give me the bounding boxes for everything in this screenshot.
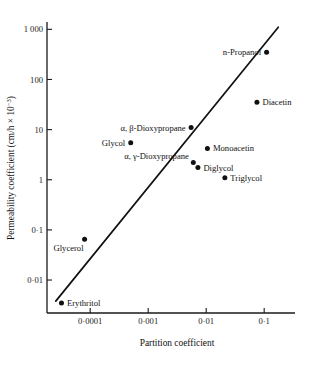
- data-point-marker: [254, 100, 259, 105]
- data-point: Glycerol: [53, 237, 87, 254]
- data-point: Diglycol: [195, 163, 234, 173]
- y-axis-title: Permeability coefficient (cm/h × 10−3): [5, 96, 17, 240]
- data-point-marker: [189, 125, 194, 130]
- y-axis-ticks: 0·010·11101001 000: [24, 24, 52, 285]
- data-point: n-Propanol: [223, 47, 269, 57]
- data-point: α, β-Dioxypropane: [120, 123, 193, 133]
- data-point-marker: [222, 175, 227, 180]
- permeability-partition-scatter-figure: 0·010·11101001 000 0·00010·0010·010·1 Er…: [0, 0, 311, 366]
- y-axis-tick-label: 100: [30, 75, 43, 85]
- data-point-label: α, γ-Dioxypropane: [124, 151, 189, 161]
- data-point-label: Triglycol: [230, 173, 262, 183]
- trend-line: [56, 27, 278, 301]
- data-point: α, γ-Dioxypropane: [124, 151, 196, 166]
- chart-canvas: 0·010·11101001 000 0·00010·0010·010·1 Er…: [0, 0, 311, 366]
- data-point: Triglycol: [222, 173, 262, 183]
- data-point-marker: [82, 237, 87, 242]
- data-point-label: Diglycol: [203, 163, 234, 173]
- y-axis-tick-label: 0·01: [27, 275, 43, 285]
- x-axis-tick-label: 0·001: [138, 316, 158, 326]
- trend-line-group: [56, 27, 278, 301]
- data-point-marker: [205, 146, 210, 151]
- y-axis-tick-label: 1 000: [24, 24, 43, 34]
- data-point-label: Glycol: [102, 138, 126, 148]
- data-point-label: n-Propanol: [223, 47, 262, 57]
- data-point-label: Diacetin: [262, 97, 292, 107]
- data-point: Monoacetin: [205, 143, 255, 153]
- x-axis-tick-label: 0·0001: [78, 316, 102, 326]
- data-point-marker: [128, 140, 133, 145]
- y-axis-tick-label: 10: [34, 125, 43, 135]
- data-point-marker: [59, 300, 64, 305]
- y-axis-tick-label: 1: [39, 175, 43, 185]
- data-point-marker: [264, 50, 269, 55]
- data-point: Diacetin: [254, 97, 292, 107]
- data-point-label: Glycerol: [53, 243, 84, 253]
- x-axis-tick-label: 0·1: [258, 316, 269, 326]
- data-point: Erythritol: [59, 298, 101, 308]
- y-axis-tick-label: 0·1: [32, 225, 43, 235]
- data-point: Glycol: [102, 138, 133, 148]
- x-axis-tick-label: 0·01: [198, 316, 214, 326]
- data-points-group: ErythritolGlycerolGlycolα, β-Dioxypropan…: [53, 47, 292, 308]
- data-point-label: α, β-Dioxypropane: [120, 123, 185, 133]
- data-point-marker: [195, 165, 200, 170]
- x-axis-ticks: 0·00010·0010·010·1: [78, 308, 270, 326]
- data-point-label: Monoacetin: [213, 143, 255, 153]
- data-point-marker: [191, 160, 196, 165]
- x-axis-title: Partition coefficient: [140, 338, 215, 348]
- chart-axes: [47, 22, 295, 313]
- data-point-label: Erythritol: [67, 298, 101, 308]
